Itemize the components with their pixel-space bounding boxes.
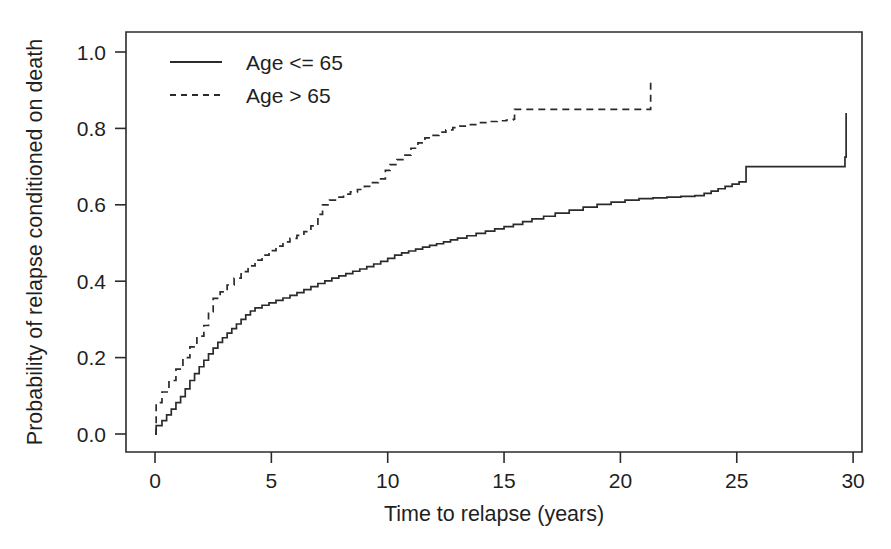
y-tick-label: 0.4 xyxy=(77,270,107,293)
x-tick-label: 25 xyxy=(725,469,748,492)
y-tick-label: 0.2 xyxy=(77,346,106,369)
kaplan-meier-step-plot: 051015202530 0.00.20.40.60.81.0 Age <= 6… xyxy=(0,0,891,549)
y-tick-label: 1.0 xyxy=(77,41,106,64)
x-axis-title: Time to relapse (years) xyxy=(384,502,604,526)
x-tick-label: 20 xyxy=(609,469,632,492)
x-tick-label: 0 xyxy=(149,469,161,492)
legend-label-age-lte-65: Age <= 65 xyxy=(246,51,343,74)
plot-background xyxy=(0,0,891,549)
x-tick-label: 10 xyxy=(376,469,399,492)
legend-label-age-gt-65: Age > 65 xyxy=(246,84,331,107)
y-axis-title: Probability of relapse conditioned on de… xyxy=(23,39,47,445)
x-tick-label: 5 xyxy=(266,469,278,492)
y-tick-label: 0.8 xyxy=(77,117,106,140)
chart-figure: 051015202530 0.00.20.40.60.81.0 Age <= 6… xyxy=(0,0,891,549)
x-tick-label: 30 xyxy=(841,469,864,492)
y-tick-label: 0.6 xyxy=(77,193,106,216)
x-tick-label: 15 xyxy=(492,469,515,492)
y-tick-label: 0.0 xyxy=(77,423,106,446)
